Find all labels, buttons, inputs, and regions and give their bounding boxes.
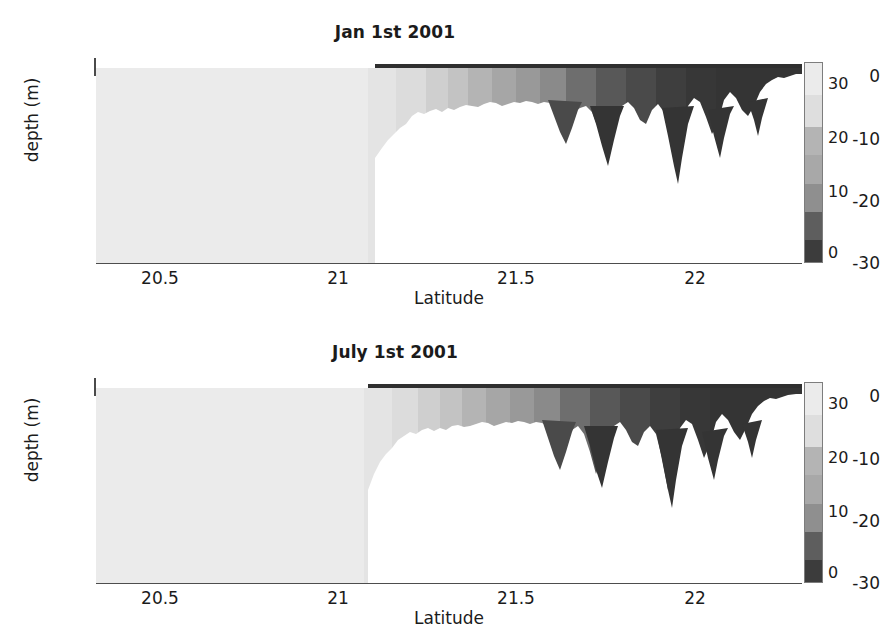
surface-line: [375, 64, 802, 68]
colorbar-tick-label: 10: [828, 182, 848, 201]
panel-july: July 1st 2001 0 -10 -20 -30 depth (m) 20…: [0, 320, 880, 639]
y-axis-label: depth (m): [22, 40, 42, 200]
x-axis-label: Latitude: [96, 288, 802, 308]
surface-line: [368, 384, 802, 388]
x-axis-label: Latitude: [96, 608, 802, 628]
x-tick-label: 21: [303, 268, 373, 288]
colorbar-band: [805, 475, 822, 505]
colorbar-band: [805, 155, 822, 185]
colorbar-jan: [804, 62, 823, 263]
colorbar-band: [805, 560, 822, 582]
colorbar-band: [805, 63, 822, 95]
colorbar-band: [805, 532, 822, 560]
colorbar-band: [805, 504, 822, 532]
section-field: [96, 62, 802, 263]
panel-jan: Jan 1st 2001 0 -10 -20 -30 depth (m) 20.…: [0, 0, 880, 319]
colorbar-tick-label: 0: [828, 243, 838, 262]
panel-title: July 1st 2001: [0, 342, 790, 362]
colorbar-band: [805, 447, 822, 475]
colorbar-tick-label: 20: [828, 448, 848, 467]
colorbar-band: [805, 212, 822, 240]
colorbar-band: [805, 184, 822, 212]
colorbar-tick-label: 30: [828, 74, 848, 93]
x-tick-label: 21.5: [481, 588, 551, 608]
colorbar-band: [805, 127, 822, 155]
colorbar-tick-label: 30: [828, 394, 848, 413]
colorbar-tick-label: 10: [828, 502, 848, 521]
colorbar-july: [804, 382, 823, 583]
x-tick-label: 20.5: [125, 268, 195, 288]
section-field: [96, 382, 802, 583]
plot-area-jan: [96, 62, 802, 263]
colorbar-tick-label: 0: [828, 563, 838, 582]
x-tick-label: 20.5: [125, 588, 195, 608]
plot-area-july: [96, 382, 802, 583]
colorbar-band: [805, 95, 822, 127]
x-tick-label: 22: [660, 588, 730, 608]
colorbar-band: [805, 383, 822, 415]
x-tick-label: 22: [660, 268, 730, 288]
x-tick-label: 21: [303, 588, 373, 608]
figure-root: Jan 1st 2001 0 -10 -20 -30 depth (m) 20.…: [0, 0, 880, 639]
x-tick-label: 21.5: [481, 268, 551, 288]
panel-title: Jan 1st 2001: [0, 22, 790, 42]
y-axis-label: depth (m): [22, 360, 42, 520]
colorbar-band: [805, 240, 822, 262]
colorbar-tick-label: 20: [828, 128, 848, 147]
colorbar-band: [805, 415, 822, 447]
